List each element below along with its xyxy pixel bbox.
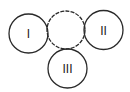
- circle-diagram: I II III: [0, 0, 130, 92]
- circle-I-group: I: [9, 14, 48, 53]
- circle-middle-dashed: [47, 11, 85, 49]
- circle-II-label: II: [100, 24, 107, 38]
- circle-III-label: III: [62, 62, 72, 76]
- circle-II-group: II: [84, 11, 123, 50]
- circle-middle-group: [47, 11, 85, 49]
- circle-I-label: I: [27, 27, 30, 41]
- circle-III-group: III: [48, 49, 87, 88]
